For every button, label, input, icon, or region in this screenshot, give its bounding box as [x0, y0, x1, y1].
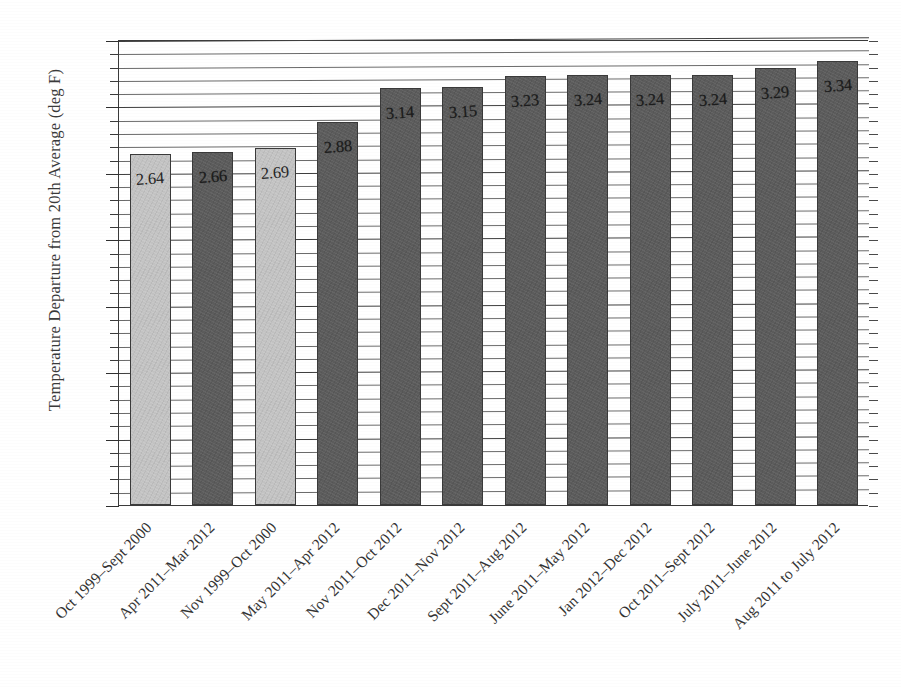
y-tick-right: [869, 227, 878, 228]
y-tick-major: [106, 240, 119, 241]
y-tick-right: [869, 506, 878, 507]
y-tick-right: [869, 121, 878, 122]
y-tick-major: [106, 307, 119, 308]
x-tick-label: Nov 1999–Oct 2000: [56, 519, 281, 687]
y-tick-minor: [110, 466, 119, 467]
y-tick-right: [869, 293, 878, 294]
y-tick-right: [869, 54, 878, 55]
bar[interactable]: 3.34: [817, 61, 858, 505]
bar-value-label: 2.64: [136, 168, 165, 190]
y-tick-right: [869, 453, 878, 454]
y-tick-right: [869, 400, 878, 401]
y-tick-right: [869, 174, 878, 175]
y-tick-minor: [110, 347, 119, 348]
x-tick-label: May 2011–Apr 2012: [118, 519, 343, 687]
x-tick-label: Sept 2011–Aug 2012: [306, 519, 531, 687]
y-tick-right: [869, 386, 878, 387]
bar[interactable]: 3.15: [442, 87, 483, 506]
x-tick-label: Oct 2011–Sept 2012: [493, 519, 718, 687]
y-tick-right: [869, 360, 878, 361]
bar[interactable]: 2.64: [130, 154, 171, 505]
y-tick-right: [869, 134, 878, 135]
chart-figure: Temperature Departure from 20th Average …: [0, 0, 901, 687]
bar-value-label: 2.66: [198, 166, 227, 188]
y-tick-right: [869, 347, 878, 348]
y-tick-minor: [110, 280, 119, 281]
y-tick-right: [869, 161, 878, 162]
y-tick-major: [106, 174, 119, 175]
x-tick-label: Oct 1999–Sept 2000: [0, 519, 156, 687]
y-tick-right: [869, 254, 878, 255]
y-tick-right: [869, 466, 878, 467]
bar-value-label: 3.15: [448, 101, 477, 123]
bar[interactable]: 2.66: [192, 152, 233, 505]
bar[interactable]: 3.29: [755, 68, 796, 505]
y-tick-minor: [110, 187, 119, 188]
bar[interactable]: 3.24: [567, 75, 608, 505]
y-tick-major: [106, 506, 119, 507]
y-tick-right: [869, 68, 878, 69]
bar-value-label: 3.14: [386, 102, 415, 124]
y-tick-minor: [110, 134, 119, 135]
y-tick-minor: [110, 426, 119, 427]
y-tick-minor: [110, 227, 119, 228]
y-tick-major: [106, 440, 119, 441]
plot-area: 0.000.501.001.502.002.503.003.50 2.642.6…: [118, 40, 868, 505]
y-tick-minor: [110, 94, 119, 95]
x-axis-line: [118, 505, 868, 506]
bar[interactable]: 3.24: [630, 75, 671, 505]
bar[interactable]: 3.24: [692, 75, 733, 505]
bar[interactable]: 3.23: [505, 76, 546, 505]
y-tick-right: [869, 493, 878, 494]
y-tick-right: [869, 267, 878, 268]
y-tick-minor: [110, 214, 119, 215]
y-tick-minor: [110, 81, 119, 82]
y-tick-minor: [110, 254, 119, 255]
y-tick-right: [869, 187, 878, 188]
gridline-minor: [119, 51, 869, 56]
bar[interactable]: 2.88: [317, 122, 358, 505]
bar-value-label: 3.34: [823, 75, 852, 97]
y-tick-right: [869, 320, 878, 321]
y-tick-right: [869, 214, 878, 215]
x-tick-label: Jan 2012–Dec 2012: [431, 519, 656, 687]
bar-value-label: 2.69: [261, 162, 290, 184]
y-tick-minor: [110, 320, 119, 321]
bar[interactable]: 3.14: [380, 88, 421, 505]
y-tick-minor: [110, 413, 119, 414]
y-tick-right: [869, 307, 878, 308]
y-tick-right: [869, 81, 878, 82]
bar-value-label: 3.29: [761, 82, 790, 104]
x-tick-label: Dec 2011–Nov 2012: [243, 519, 468, 687]
y-tick-right: [869, 107, 878, 108]
y-tick-minor: [110, 68, 119, 69]
y-tick-minor: [110, 121, 119, 122]
gridline-major: [119, 37, 869, 42]
bar-value-label: 2.88: [323, 136, 352, 158]
y-tick-right: [869, 240, 878, 241]
x-tick-label: Nov 2011–Oct 2012: [181, 519, 406, 687]
y-tick-minor: [110, 54, 119, 55]
bar[interactable]: 2.69: [255, 148, 296, 505]
y-tick-right: [869, 440, 878, 441]
bar-value-label: 3.24: [636, 89, 665, 111]
y-tick-right: [869, 200, 878, 201]
y-tick-minor: [110, 147, 119, 148]
y-tick-minor: [110, 267, 119, 268]
y-tick-right: [869, 147, 878, 148]
bar-value-label: 3.23: [511, 90, 540, 112]
y-tick-minor: [110, 479, 119, 480]
x-tick-label: July 2011–June 2012: [556, 519, 781, 687]
y-tick-major: [106, 107, 119, 108]
y-tick-minor: [110, 333, 119, 334]
y-tick-right: [869, 280, 878, 281]
y-tick-minor: [110, 493, 119, 494]
x-tick-label: June 2011–May 2012: [368, 519, 593, 687]
y-tick-right: [869, 413, 878, 414]
y-tick-right: [869, 94, 878, 95]
y-tick-right: [869, 426, 878, 427]
x-tick-label: Apr 2011–Mar 2012: [0, 519, 218, 687]
y-tick-right: [869, 333, 878, 334]
bar-value-label: 3.24: [698, 89, 727, 111]
y-tick-minor: [110, 200, 119, 201]
